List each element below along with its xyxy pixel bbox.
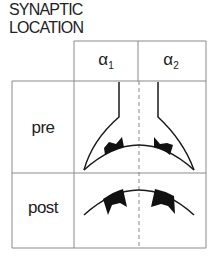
alpha-symbol: α (98, 50, 108, 69)
alpha-symbol: α (163, 50, 173, 69)
pre-receptor-alpha2 (154, 137, 173, 155)
row-label-post: post (12, 198, 74, 218)
pre-receptor-alpha1 (104, 137, 124, 155)
post-receptor-alpha1 (103, 189, 127, 215)
column-header-alpha2: α2 (139, 50, 203, 71)
subscript: 2 (173, 60, 179, 71)
post-receptor-alpha2 (151, 189, 175, 214)
column-header-alpha1: α1 (74, 50, 138, 71)
row-label-pre: pre (12, 118, 74, 138)
subscript: 1 (108, 60, 114, 71)
